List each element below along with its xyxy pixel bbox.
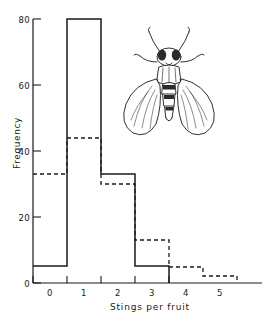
x-tick-marks [33,276,169,283]
chart-figure: Frequency 0 20 40 60 80 0 1 2 3 4 5 Stin… [0,0,275,321]
solid-histogram-outline [33,19,169,283]
plot-area [0,0,275,321]
y-tick-marks [33,19,41,283]
fly-illustration [124,27,215,135]
